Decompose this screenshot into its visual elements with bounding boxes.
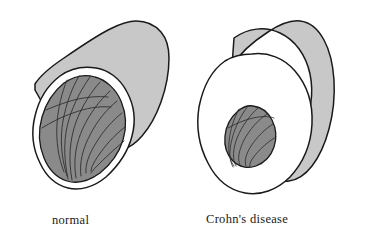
caption-crohns-disease: Crohn's disease xyxy=(206,212,288,227)
caption-normal: normal xyxy=(52,213,89,228)
normal-intestine-panel xyxy=(33,21,169,189)
crohns-intestine-panel xyxy=(198,21,334,194)
